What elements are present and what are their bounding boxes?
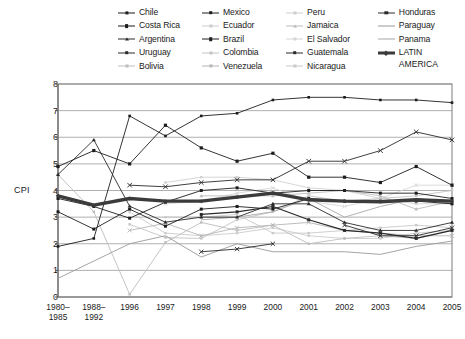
data-point-marker xyxy=(236,210,239,213)
data-point-marker xyxy=(200,115,203,118)
data-point-marker xyxy=(200,189,203,192)
data-point-marker xyxy=(200,146,203,149)
series-costa-rica xyxy=(56,124,453,187)
data-point-marker xyxy=(164,124,167,127)
data-point-marker xyxy=(308,195,310,197)
data-point-marker xyxy=(128,115,131,118)
series-line xyxy=(58,236,452,279)
x-tick-line-1: 2003 xyxy=(371,302,390,312)
data-point-marker xyxy=(379,192,382,195)
x-tick-line-1: 1999 xyxy=(228,302,247,312)
data-point-marker xyxy=(92,138,96,141)
data-point-marker xyxy=(307,176,310,179)
data-point-marker xyxy=(343,237,345,239)
data-point-marker xyxy=(343,176,346,179)
data-point-marker xyxy=(236,112,239,115)
data-point-marker xyxy=(164,241,166,243)
data-point-marker xyxy=(272,99,275,102)
data-point-marker xyxy=(415,232,417,234)
data-point-marker xyxy=(272,232,274,234)
data-point-marker xyxy=(415,224,417,226)
data-point-marker xyxy=(200,237,202,239)
chart-svg xyxy=(0,0,465,339)
data-point-marker xyxy=(200,221,202,223)
data-point-marker xyxy=(164,135,167,138)
x-tick-label: 2003 xyxy=(371,302,390,312)
series-uruguay xyxy=(127,130,454,189)
data-point-marker xyxy=(93,211,95,213)
data-point-marker xyxy=(308,187,310,189)
data-point-marker xyxy=(236,232,238,234)
x-tick-label: 2002 xyxy=(335,302,354,312)
series-paraguay xyxy=(58,236,452,279)
data-point-marker xyxy=(451,189,453,191)
x-tick-label: 1980–1985 xyxy=(46,302,69,322)
x-tick-label: 1996 xyxy=(120,302,139,312)
x-tick-line-1: 2000 xyxy=(264,302,283,312)
data-point-marker xyxy=(92,149,95,152)
data-point-marker xyxy=(200,176,202,178)
data-point-marker xyxy=(128,162,131,165)
data-point-marker xyxy=(307,218,310,221)
x-tick-line-1: 1988– xyxy=(82,302,105,312)
data-point-marker xyxy=(235,160,238,163)
data-point-marker xyxy=(379,181,382,184)
data-point-marker xyxy=(93,237,96,240)
data-point-marker xyxy=(450,184,453,187)
data-point-marker xyxy=(128,293,130,295)
data-point-marker xyxy=(128,223,130,225)
data-point-marker xyxy=(379,237,381,239)
data-point-marker xyxy=(415,99,418,102)
data-point-marker xyxy=(128,217,131,220)
data-point-marker xyxy=(307,189,310,192)
chart-plot-area: CPI 012345678 1980–19851988–199219961997… xyxy=(0,0,465,339)
data-point-marker xyxy=(56,165,59,168)
data-point-marker xyxy=(164,181,166,183)
data-point-marker xyxy=(343,229,346,232)
data-point-marker xyxy=(415,203,417,205)
data-point-marker xyxy=(415,195,417,197)
data-point-marker xyxy=(308,235,310,237)
x-tick-label: 1999 xyxy=(228,302,247,312)
data-point-marker xyxy=(236,219,238,221)
data-point-marker xyxy=(236,205,239,208)
series-line xyxy=(130,132,452,187)
data-point-marker xyxy=(343,96,346,99)
data-point-marker xyxy=(272,227,274,229)
data-point-marker xyxy=(307,96,310,99)
x-tick-label: 1988–1992 xyxy=(82,302,105,322)
data-point-marker xyxy=(451,101,454,104)
data-point-marker xyxy=(379,99,382,102)
data-point-marker xyxy=(200,208,203,211)
series-line xyxy=(201,244,273,252)
data-point-marker xyxy=(200,213,203,216)
x-tick-line-1: 2005 xyxy=(443,302,462,312)
data-point-marker xyxy=(415,192,418,195)
x-tick-line-2: 1985 xyxy=(46,312,69,322)
x-tick-line-1: 1980– xyxy=(46,302,69,312)
x-tick-label: 2001 xyxy=(299,302,318,312)
data-point-marker xyxy=(271,152,274,155)
series-venezuela xyxy=(128,220,454,237)
x-tick-line-2: 1992 xyxy=(82,312,105,322)
data-point-marker xyxy=(308,232,310,234)
data-point-marker xyxy=(128,204,132,207)
data-point-marker xyxy=(128,211,130,213)
data-point-marker xyxy=(236,176,238,178)
data-point-marker xyxy=(128,208,131,211)
data-point-marker xyxy=(415,165,418,168)
x-tick-label: 1997 xyxy=(156,302,175,312)
x-tick-line-1: 1998 xyxy=(192,302,211,312)
data-point-marker xyxy=(164,236,166,238)
data-point-marker xyxy=(57,245,60,248)
data-point-marker xyxy=(92,228,95,231)
x-tick-line-1: 2001 xyxy=(299,302,318,312)
x-tick-label: 2000 xyxy=(264,302,283,312)
x-tick-line-1: 2002 xyxy=(335,302,354,312)
x-tick-line-1: 2004 xyxy=(407,302,426,312)
series-argentina xyxy=(56,138,454,232)
data-point-marker xyxy=(164,225,167,228)
x-tick-label: 2005 xyxy=(443,302,462,312)
data-point-marker xyxy=(379,197,381,199)
data-point-marker xyxy=(236,229,238,231)
